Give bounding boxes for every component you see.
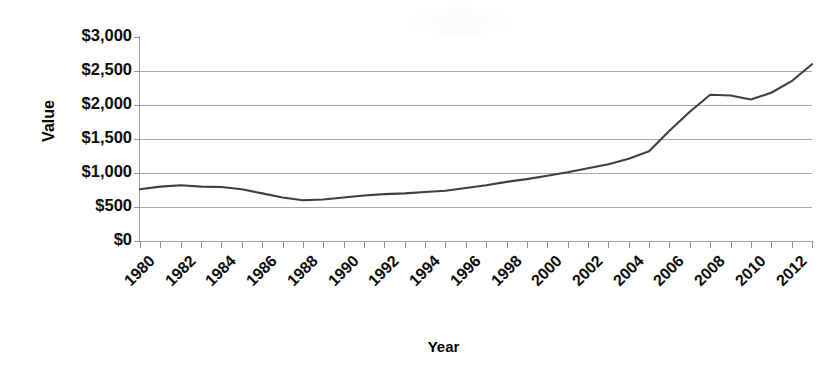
x-axis-tick-mark xyxy=(608,242,609,248)
x-axis-tick-mark xyxy=(445,242,446,248)
y-axis-tick-label: $3,000 xyxy=(40,26,132,45)
y-axis-tick-label: $2,500 xyxy=(40,60,132,79)
x-axis-tick-mark xyxy=(588,242,589,248)
x-axis-tick-mark xyxy=(527,242,528,248)
x-axis-tick-mark xyxy=(466,242,467,248)
x-axis-tick-mark xyxy=(323,242,324,248)
x-axis-tick-mark xyxy=(384,242,385,248)
x-axis-tick-mark xyxy=(364,242,365,248)
plot-area xyxy=(140,37,812,241)
x-axis-tick-mark xyxy=(242,242,243,248)
gridline xyxy=(140,241,812,242)
y-axis-tick-label: $0 xyxy=(40,230,132,249)
x-axis-tick-mark xyxy=(486,242,487,248)
x-axis-tick-mark xyxy=(731,242,732,248)
x-axis-tick-mark xyxy=(425,242,426,248)
series-line-value xyxy=(140,37,812,241)
y-axis-tick-label: $2,000 xyxy=(40,94,132,113)
x-axis-tick-mark xyxy=(262,242,263,248)
x-axis-tick-mark xyxy=(344,242,345,248)
x-axis-tick-mark xyxy=(283,242,284,248)
x-axis-tick-mark xyxy=(201,242,202,248)
x-axis-tick-mark xyxy=(690,242,691,248)
x-axis-tick-mark xyxy=(140,242,141,248)
x-axis-tick-mark xyxy=(221,242,222,248)
x-axis-tick-mark xyxy=(405,242,406,248)
x-axis-tick-mark xyxy=(568,242,569,248)
x-axis-tick-mark xyxy=(181,242,182,248)
y-axis-tick-label: $1,500 xyxy=(40,128,132,147)
x-axis-tick-mark xyxy=(771,242,772,248)
x-axis-tick-mark xyxy=(669,242,670,248)
x-axis-tick-mark xyxy=(649,242,650,248)
x-axis-tick-mark xyxy=(710,242,711,248)
line-chart: Value $0$500$1,000$1,500$2,000$2,500$3,0… xyxy=(0,0,837,372)
y-axis-tick-label: $500 xyxy=(40,196,132,215)
x-axis-tick-mark xyxy=(507,242,508,248)
x-axis-tick-mark xyxy=(160,242,161,248)
x-axis-tick-mark xyxy=(547,242,548,248)
x-axis-tick-mark xyxy=(751,242,752,248)
x-axis-tick-mark xyxy=(629,242,630,248)
x-axis-tick-mark xyxy=(812,242,813,248)
x-axis-tick-mark xyxy=(792,242,793,248)
y-axis-tick-labels: $0$500$1,000$1,500$2,000$2,500$3,000 xyxy=(36,0,132,372)
x-axis-title: Year xyxy=(0,338,837,355)
x-axis-tick-mark xyxy=(303,242,304,248)
y-axis-tick-label: $1,000 xyxy=(40,162,132,181)
scan-artifact xyxy=(400,2,520,40)
